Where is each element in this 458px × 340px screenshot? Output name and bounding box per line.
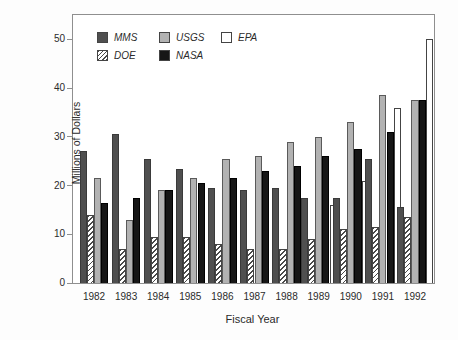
plot-area: Millions of Dollars MMSUSGSEPADOENASA 01… <box>72 14 435 284</box>
bar-usgs-1992 <box>411 100 418 283</box>
legend-swatch-epa-icon <box>221 32 232 43</box>
bar-doe-1990 <box>340 229 347 283</box>
bar-mms-1992 <box>397 207 404 283</box>
bar-usgs-1986 <box>222 159 229 283</box>
legend-swatch-doe-icon <box>97 50 108 61</box>
bar-doe-1992 <box>404 217 411 283</box>
legend-item-mms: MMS <box>97 32 159 43</box>
legend-swatch-nasa-icon <box>159 50 170 61</box>
bar-nasa-1986 <box>230 178 237 283</box>
bar-mms-1984 <box>144 159 151 283</box>
bar-nasa-1982 <box>101 203 108 283</box>
bar-usgs-1990 <box>347 122 354 283</box>
y-axis-tick-label: 40 <box>31 83 65 93</box>
bar-doe-1987 <box>247 249 254 283</box>
bar-mms-1990 <box>333 198 340 283</box>
legend-label: EPA <box>238 32 257 43</box>
bar-usgs-1988 <box>287 142 294 283</box>
legend-row: DOENASA <box>97 46 283 64</box>
bar-nasa-1990 <box>354 149 361 283</box>
legend-swatch-usgs-icon <box>159 32 170 43</box>
bar-doe-1982 <box>87 215 94 283</box>
bar-usgs-1984 <box>158 190 165 283</box>
bar-nasa-1987 <box>262 171 269 283</box>
bar-nasa-1992 <box>419 100 426 283</box>
bar-doe-1986 <box>215 244 222 283</box>
y-axis-tick-label: 20 <box>31 181 65 191</box>
legend-label: DOE <box>114 50 136 61</box>
bar-doe-1983 <box>119 249 126 283</box>
bar-doe-1985 <box>183 237 190 283</box>
legend-label: USGS <box>176 32 204 43</box>
bar-epa-1992 <box>426 39 433 283</box>
y-axis-tick <box>67 283 72 284</box>
bar-doe-1988 <box>279 249 286 283</box>
legend-swatch-mms-icon <box>97 32 108 43</box>
y-axis-tick <box>67 88 72 89</box>
bar-nasa-1991 <box>387 132 394 283</box>
bar-mms-1985 <box>176 169 183 284</box>
bar-doe-1989 <box>308 239 315 283</box>
bar-usgs-1985 <box>190 178 197 283</box>
bar-usgs-1987 <box>255 156 262 283</box>
bar-nasa-1983 <box>133 198 140 283</box>
x-axis-title: Fiscal Year <box>72 313 433 325</box>
bar-mms-1989 <box>301 198 308 283</box>
legend-row: MMSUSGSEPA <box>97 28 283 46</box>
legend: MMSUSGSEPADOENASA <box>97 28 283 64</box>
bar-doe-1984 <box>151 237 158 283</box>
legend-item-doe: DOE <box>97 50 159 61</box>
y-axis-tick <box>67 234 72 235</box>
y-axis-tick-label: 30 <box>31 132 65 142</box>
legend-item-usgs: USGS <box>159 32 221 43</box>
y-axis-tick-label: 10 <box>31 229 65 239</box>
y-axis-tick-label: 50 <box>31 34 65 44</box>
legend-label: MMS <box>114 32 137 43</box>
bar-mms-1983 <box>112 134 119 283</box>
legend-item-epa: EPA <box>221 32 283 43</box>
bar-usgs-1983 <box>126 220 133 283</box>
x-axis-tick-label: 1992 <box>395 291 435 302</box>
bar-mms-1982 <box>80 151 87 283</box>
y-axis-tick-label: 0 <box>31 278 65 288</box>
bar-usgs-1991 <box>379 95 386 283</box>
bar-nasa-1984 <box>165 190 172 283</box>
y-axis-tick <box>67 136 72 137</box>
legend-label: NASA <box>176 50 203 61</box>
bar-usgs-1989 <box>315 137 322 283</box>
bar-doe-1991 <box>372 227 379 283</box>
legend-item-nasa: NASA <box>159 50 221 61</box>
bar-mms-1986 <box>208 188 215 283</box>
y-axis-tick <box>67 185 72 186</box>
bar-nasa-1985 <box>198 183 205 283</box>
bar-usgs-1982 <box>94 178 101 283</box>
y-axis-tick <box>67 39 72 40</box>
bar-mms-1988 <box>272 188 279 283</box>
bar-mms-1991 <box>365 159 372 283</box>
bar-mms-1987 <box>240 190 247 283</box>
bar-nasa-1989 <box>322 156 329 283</box>
